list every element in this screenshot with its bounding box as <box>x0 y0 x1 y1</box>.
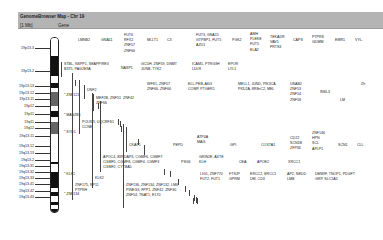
gene-label[interactable]: INSL3 <box>320 90 330 95</box>
gene-list[interactable]: KLK2 <box>95 176 104 181</box>
chromosome-band[interactable] <box>51 76 58 83</box>
gene-label[interactable]: FUT2, FUT1 <box>200 177 223 182</box>
gene-list[interactable]: VYL- <box>355 38 363 43</box>
gene-label[interactable]: PKD2A, 8R8nC2, MEL <box>238 87 276 92</box>
gene-label[interactable]: COMP, PTGER1 <box>188 87 215 92</box>
gene-list[interactable]: APOC4, B3PDAP3, CGMF6, CGMF7CGMF5, CGMF8… <box>103 155 163 171</box>
gene-list[interactable]: GPI <box>230 143 236 148</box>
gene-label[interactable]: Zh <box>361 82 365 87</box>
gene-list[interactable]: FUT6RFX2ZNF57ZNF66 <box>124 33 135 54</box>
gene-list[interactable]: ZNF175, RP11PTPRH <box>75 183 99 193</box>
gene-list[interactable]: EMR1 <box>335 38 345 43</box>
gene-label[interactable]: APLP1 <box>312 147 325 152</box>
gene-list[interactable]: SCN1 <box>338 143 348 148</box>
gene-list[interactable]: ZNF146HPNSCLAPLP1 <box>312 131 325 152</box>
gene-label[interactable]: CLL <box>357 143 364 148</box>
gene-list[interactable]: TEKADRVAV1FRTS3 <box>270 35 285 51</box>
gene-label[interactable]: CCNE <box>82 125 114 130</box>
gene-label[interactable]: CEA <box>239 160 246 165</box>
gene-list[interactable]: LMNB2 <box>78 38 90 43</box>
gene-label[interactable]: PTPRH <box>75 188 99 193</box>
gene-list[interactable]: ERCC2, ERCC1DM, CD3 <box>250 172 276 182</box>
gene-label[interactable]: LM <box>340 98 345 103</box>
gene-list[interactable]: C3 <box>167 38 172 43</box>
gene-label[interactable]: PSG6 <box>181 160 191 165</box>
chromosome-band[interactable] <box>51 56 58 76</box>
gene-label[interactable]: B3T5, PAG2E3A <box>64 67 109 72</box>
gene-label[interactable]: ZNF57 <box>124 43 135 48</box>
gene-list[interactable]: EPORLYL1 <box>228 62 238 72</box>
gene-list[interactable]: GRIN2E, AXTEKLH <box>199 155 224 165</box>
gene-label[interactable]: ELA2 <box>250 48 262 53</box>
gene-list[interactable]: STBL, NSPP1, SEAPP/RE3B3T5, PAG2E3A <box>64 62 109 72</box>
gene-list[interactable]: CKAP1 <box>129 143 141 148</box>
gene-list[interactable]: APOE2 <box>257 160 269 165</box>
gene-list[interactable]: USAB2ZNF53ZNF54ZNF58 <box>290 82 302 103</box>
gene-label[interactable]: MAG <box>197 140 208 145</box>
gene-list[interactable]: GCDH, ZNF59, DNMTJUNB, TYK2 <box>141 62 177 72</box>
gene-list[interactable]: GNA11 <box>101 38 113 43</box>
column-header-scale[interactable]: [1 Mb] <box>20 23 33 28</box>
gene-label[interactable]: LDLR <box>192 67 220 72</box>
gene-list[interactable]: ATP4AMAG <box>197 135 208 145</box>
gene-list[interactable]: MELL1, JUND, PIK3CAPKD2A, 8R8nC2, MEL <box>238 82 276 92</box>
gene-list[interactable]: CD22SCN1BZFP36 <box>290 136 302 152</box>
gene-label[interactable]: KLH <box>199 160 224 165</box>
gene-label[interactable]: JUNB, TYK2 <box>141 67 177 72</box>
chromosome-band[interactable] <box>51 209 58 213</box>
gene-label[interactable]: GPRM <box>229 177 240 182</box>
gene-label[interactable]: CKAP1 <box>129 143 141 148</box>
chromosome-ideogram[interactable] <box>50 37 59 213</box>
gene-list[interactable]: PTPRSGDMM <box>312 35 324 45</box>
gene-label[interactable]: APOE2 <box>257 160 269 165</box>
gene-label[interactable]: GDMM <box>312 40 324 45</box>
gene-label[interactable]: COX7A1 <box>261 143 275 148</box>
gene-list[interactable]: CLL <box>357 143 364 148</box>
gene-label[interactable]: GRP, SLC1A5 <box>315 177 355 182</box>
chromosome-band[interactable] <box>51 92 58 106</box>
gene-label[interactable]: CAPS <box>293 38 303 43</box>
gene-list[interactable]: CEA <box>239 160 246 165</box>
gene-list[interactable]: ELL-PEB, AKGCOMP, PTGER1 <box>188 82 215 92</box>
gene-list[interactable]: LM <box>340 98 345 103</box>
gene-label[interactable]: PEPD <box>173 143 183 148</box>
gene-label[interactable]: DM, CD3 <box>250 177 276 182</box>
gene-list[interactable]: CAPS <box>293 38 303 43</box>
gene-label[interactable]: ZNF66 <box>124 49 135 54</box>
gene-label[interactable]: ZFP36 <box>290 146 302 151</box>
gene-label[interactable]: LMB <box>287 177 306 182</box>
gene-list[interactable]: AMHPLEKEFUT5ELA2 <box>250 32 262 53</box>
gene-list[interactable]: PSG6 <box>181 160 191 165</box>
gene-label[interactable]: VYL- <box>355 38 363 43</box>
gene-list[interactable]: FTSJPGPRM <box>229 172 240 182</box>
gene-label[interactable]: CGMF2, CYTBA5 <box>103 165 163 170</box>
gene-list[interactable]: ICAM1, PTRG3HLDLR <box>192 62 220 72</box>
gene-list[interactable]: INSL3 <box>320 90 330 95</box>
chromosome-band[interactable] <box>51 164 58 172</box>
gene-list[interactable]: XRCC1 <box>288 160 300 165</box>
gene-label[interactable]: EMR1 <box>335 38 345 43</box>
chromosome-band[interactable] <box>51 172 58 188</box>
gene-list[interactable]: DMWIF, TNOP1, PDGFTGRP, SLC1A5 <box>315 172 355 182</box>
gene-list[interactable]: AP2, NEDDLMB <box>287 172 306 182</box>
gene-label[interactable]: GNA11 <box>101 38 113 43</box>
gene-label[interactable]: XRCC1 <box>288 160 300 165</box>
gene-label[interactable]: C3 <box>167 38 172 43</box>
gene-list[interactable]: WFS1, ZNF57ZNF66, ZNF66 <box>147 82 171 92</box>
gene-label[interactable]: ZNF42 <box>123 96 134 101</box>
gene-label[interactable]: AZU1 <box>196 43 221 48</box>
gene-label[interactable]: PGK2 <box>232 38 242 43</box>
column-header-gene[interactable]: Gene <box>58 23 69 28</box>
gene-list[interactable]: MLLT1 <box>147 38 158 43</box>
chromosome-band[interactable] <box>51 134 58 162</box>
gene-list[interactable]: FUT3, GNA15GTPBP1, FUT5AZU1 <box>196 33 221 49</box>
gene-list[interactable]: NASP1 <box>121 66 133 71</box>
gene-list[interactable]: PGK2 <box>232 38 242 43</box>
gene-label[interactable]: LMNB2 <box>78 38 90 43</box>
gene-label[interactable]: ZNF54, TNAT1, E170 <box>126 193 178 198</box>
gene-label[interactable]: LYL1 <box>228 67 238 72</box>
chromosome-band[interactable] <box>51 122 58 134</box>
gene-list[interactable]: ZNF136, ZNF134, ZNF132, LM6PINEG3, FPP1,… <box>126 183 178 199</box>
gene-label[interactable]: FRTS3 <box>270 45 285 50</box>
chromosome-band[interactable] <box>51 38 58 56</box>
